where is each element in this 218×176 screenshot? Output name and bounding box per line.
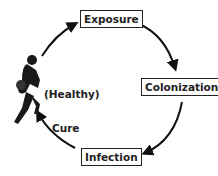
infection-node: Infection (81, 148, 142, 166)
player-silhouette-icon (14, 55, 40, 124)
cure-label: Cure (52, 122, 79, 134)
exposure-node: Exposure (80, 10, 143, 28)
healthy-label: (Healthy) (44, 88, 100, 100)
colonization-node: Colonization (141, 78, 218, 96)
